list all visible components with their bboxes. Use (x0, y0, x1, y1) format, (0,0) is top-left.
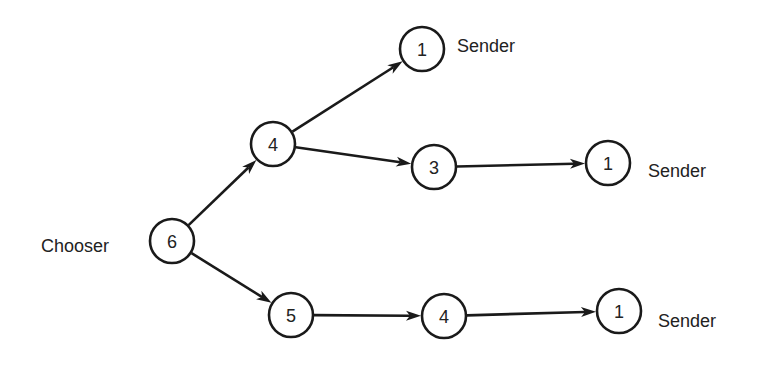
edge-arrow (314, 311, 421, 321)
edge-arrow (192, 253, 272, 303)
edge-line (292, 67, 393, 131)
tree-node: 4 (251, 122, 295, 166)
edge-line (192, 253, 263, 297)
node-value: 4 (439, 307, 449, 327)
edge-arrow (292, 61, 402, 131)
nodes-layer: 64131541 (150, 27, 641, 338)
node-value: 4 (268, 135, 278, 155)
tree-node: 5 (269, 293, 313, 337)
edge-line (296, 147, 401, 162)
edge-arrow (457, 159, 585, 169)
node-value: 6 (167, 232, 177, 252)
game-tree-diagram: 64131541 ChooserSenderSenderSender (0, 0, 765, 366)
label-sender-top: Sender (457, 36, 515, 56)
tree-node: 6 (150, 219, 194, 263)
arrowhead-icon (387, 61, 402, 73)
edge-arrow (467, 307, 596, 317)
edge-line (457, 164, 574, 167)
tree-node: 1 (597, 289, 641, 333)
edges-layer (189, 61, 596, 320)
label-chooser: Chooser (41, 236, 109, 256)
edge-line (467, 312, 585, 315)
edge-arrow (189, 160, 257, 225)
node-value: 3 (429, 158, 439, 178)
label-sender-bottom: Sender (658, 311, 716, 331)
edge-line (189, 168, 249, 226)
arrowhead-icon (256, 291, 271, 303)
node-value: 1 (614, 302, 624, 322)
edge-line (314, 315, 410, 316)
node-value: 1 (603, 154, 613, 174)
tree-node: 1 (586, 141, 630, 185)
tree-node: 3 (412, 145, 456, 189)
tree-node: 1 (400, 27, 444, 71)
tree-node: 4 (422, 294, 466, 338)
node-value: 5 (286, 306, 296, 326)
edge-arrow (296, 147, 411, 166)
label-sender-mid: Sender (648, 161, 706, 181)
node-value: 1 (417, 40, 427, 60)
